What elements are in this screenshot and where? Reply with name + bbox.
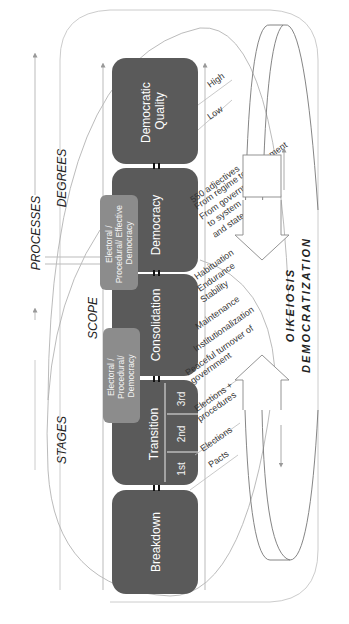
double-arrow — [235, 155, 289, 410]
stage-label-democracy: Democracy — [149, 195, 163, 256]
label-degrees: DEGREES — [55, 149, 69, 208]
label-oikeiosis: OIKEIOSIS — [284, 268, 296, 342]
stage-label-breakdown: Breakdown — [149, 512, 163, 572]
label-scope: SCOPE — [86, 296, 100, 339]
phase-1st: 1st — [176, 462, 187, 476]
stage-label-consolidation: Consolidation — [149, 289, 163, 362]
phase-3rd: 3rd — [176, 392, 187, 406]
label-democratization: DEMOCRATIZATION — [300, 237, 312, 373]
stage-label-transition: Transition — [147, 408, 161, 460]
diagram-canvas: Democratic Quality Democracy Consolidati… — [0, 0, 349, 624]
annotation-low: Low — [205, 104, 225, 122]
annotation-pacts: Pacts — [206, 448, 231, 469]
annotation-elections: Elections — [198, 424, 234, 453]
label-processes: PROCESSES — [29, 196, 43, 271]
sub-box-electoral-label: Electoral / Procedural/ Democracy — [106, 353, 136, 399]
phase-2nd: 2nd — [176, 426, 187, 443]
label-stages: STAGES — [55, 416, 69, 464]
